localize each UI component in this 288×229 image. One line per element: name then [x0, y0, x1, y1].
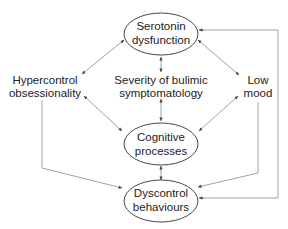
node-cognitive-processes: Cognitive processes — [124, 123, 198, 165]
edge-serotonin-lowmood — [198, 40, 239, 75]
cognitive-label-line2: processes — [135, 145, 188, 157]
serotonin-label-line1: Serotonin — [136, 20, 185, 32]
cognitive-label-line1: Cognitive — [137, 131, 185, 143]
edge-serotonin-hypercontrol — [82, 40, 124, 74]
edge-hypercontrol-cognitive — [84, 96, 122, 131]
serotonin-label-line2: dysfunction — [132, 34, 190, 46]
severity-label-line2: symptomatology — [119, 87, 203, 99]
cognitive-ellipse — [124, 123, 198, 165]
severity-label-line1: Severity of bulimic — [114, 74, 208, 86]
dyscontrol-label-line2: behaviours — [133, 201, 190, 213]
dyscontrol-label-line1: Dyscontrol — [134, 187, 188, 199]
edge-loop-serotonin-dyscontrol — [199, 30, 278, 198]
hypercontrol-label-line2: obsessionality — [9, 87, 81, 99]
node-severity-bulimic-symptomatology: Severity of bulimic symptomatology — [114, 74, 208, 99]
edge-lowmood-cognitive — [199, 96, 238, 131]
node-serotonin-dysfunction: Serotonin dysfunction — [124, 13, 198, 55]
hypercontrol-label-line1: Hypercontrol — [12, 74, 77, 86]
node-hypercontrol-obsessionality: Hypercontrol obsessionality — [9, 74, 81, 99]
node-low-mood: Low mood — [244, 74, 273, 99]
lowmood-label-line1: Low — [247, 74, 269, 86]
edge-hypercontrol-dyscontrol — [42, 100, 122, 188]
bulimia-causal-diagram: Serotonin dysfunction Hypercontrol obses… — [0, 0, 288, 229]
node-dyscontrol-behaviours: Dyscontrol behaviours — [124, 180, 198, 222]
lowmood-label-line2: mood — [244, 87, 273, 99]
edge-lowmood-dyscontrol — [198, 102, 258, 187]
